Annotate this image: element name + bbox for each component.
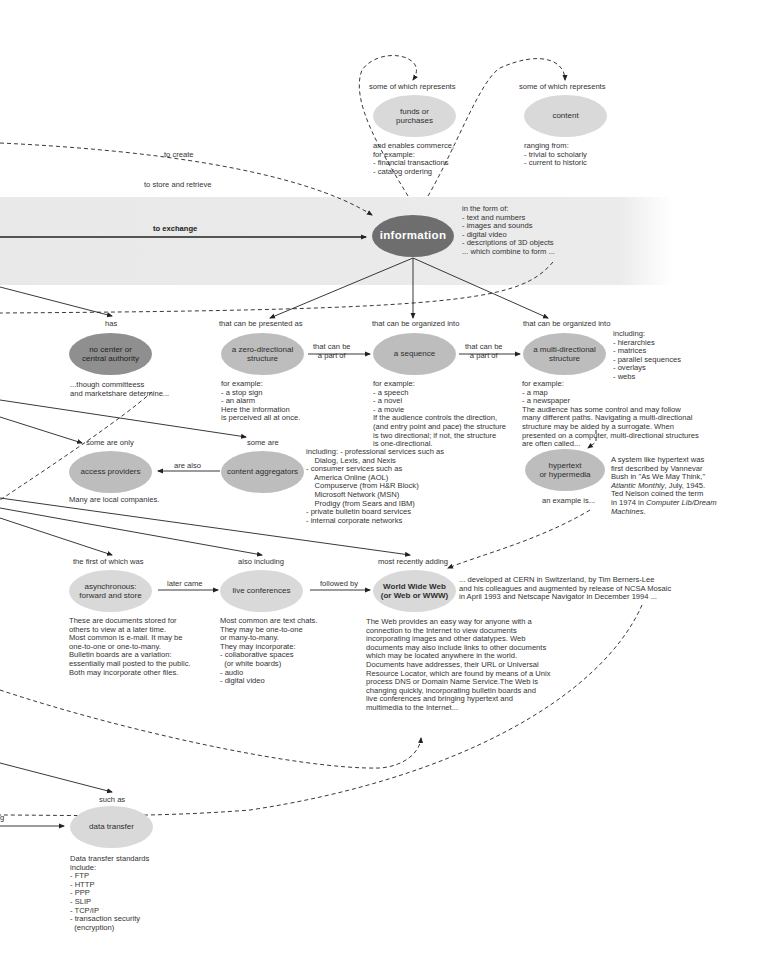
multi-directional-description: for example: - a map - a newspaper The a…: [522, 380, 699, 449]
node-funds-or-purchases[interactable]: funds or purchases: [373, 95, 456, 137]
label-organized-into-2: that can be organized into: [523, 319, 610, 328]
label-some-are: some are: [247, 438, 279, 447]
sequence-description: for example: - a speech - a novel - a mo…: [373, 380, 506, 449]
node-hypertext[interactable]: hypertext or hypermedia: [525, 449, 605, 491]
node-information[interactable]: information: [372, 215, 454, 257]
node-content[interactable]: content: [524, 95, 607, 137]
asynchronous-description: These are documents stored for others to…: [69, 617, 191, 677]
node-asynchronous[interactable]: asynchronous: forward and store: [69, 570, 152, 612]
hypertext-description: A system like hypertext was first descri…: [611, 456, 717, 516]
label-part-of-2: that can be a part of: [465, 342, 503, 360]
label-content-represents: some of which represents: [519, 82, 606, 91]
label-part-of-1: that can be a part of: [313, 342, 351, 360]
label-such-as: such as: [99, 795, 125, 804]
label-are-also: are also: [174, 461, 201, 470]
funds-description: and enables commerce, for example: - fin…: [373, 142, 454, 176]
node-access-providers[interactable]: access providers: [69, 451, 152, 493]
node-world-wide-web[interactable]: World Wide Web (or Web or WWW): [373, 570, 456, 612]
node-live-conferences[interactable]: live conferences: [220, 570, 303, 612]
node-no-center[interactable]: no center or central authority: [69, 333, 152, 375]
label-to-store-and-retrieve: to store and retrieve: [144, 180, 212, 189]
label-followed-by: followed by: [320, 579, 358, 588]
label-left-cut: g: [0, 813, 4, 822]
label-most-recently-adding: most recently adding: [378, 557, 448, 566]
label-organized-into-1: that can be organized into: [372, 319, 459, 328]
label-later-came: later came: [167, 579, 202, 588]
multi-directional-including: including: - hierarchies - matrices - pa…: [613, 330, 681, 382]
label-also-including: also including: [238, 557, 284, 566]
label-some-are-only: some are only: [86, 438, 134, 447]
no-center-description: ...though committeess and marketshare de…: [70, 381, 169, 398]
label-first-was: the first of which was: [73, 557, 143, 566]
node-sequence[interactable]: a sequence: [373, 333, 456, 375]
www-history: ... developed at CERN in Switzerland, by…: [459, 576, 671, 602]
content-aggregators-description: including: - professional services such …: [306, 448, 444, 525]
label-to-create: to create: [164, 150, 194, 159]
label-to-exchange: to exchange: [153, 224, 197, 233]
label-presented-as: that can be presented as: [219, 319, 303, 328]
information-description: in the form of: - text and numbers - ima…: [462, 205, 555, 257]
data-transfer-description: Data transfer standards include: - FTP -…: [70, 855, 149, 932]
live-conferences-description: Most common are text chats. They may be …: [220, 617, 318, 686]
access-providers-description: Many are local companies.: [69, 496, 159, 505]
content-description: ranging from: - trivial to scholarly - c…: [524, 142, 587, 168]
label-funds-represents: some of which represents: [369, 82, 456, 91]
node-zero-directional[interactable]: a zero-directional structure: [221, 333, 304, 375]
node-content-aggregators[interactable]: content aggregators: [221, 451, 304, 493]
node-multi-directional[interactable]: a multi-directional structure: [523, 333, 606, 375]
www-description: The Web provides an easy way for anyone …: [366, 618, 550, 713]
zero-directional-description: for example: - a stop sign - an alarm He…: [221, 380, 300, 423]
label-an-example-is: an example is...: [542, 496, 595, 505]
node-data-transfer[interactable]: data transfer: [70, 806, 153, 848]
label-has: has: [105, 319, 117, 328]
